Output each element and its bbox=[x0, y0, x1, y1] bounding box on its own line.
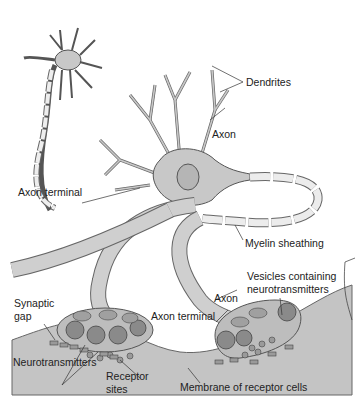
label-synaptic-gap-line2: gap bbox=[14, 310, 32, 322]
nucleus bbox=[177, 164, 199, 190]
label-axon-terminal-left: Axon terminal bbox=[18, 186, 82, 198]
label-receptor-sites-line2: sites bbox=[106, 383, 128, 395]
label-receptor-sites-line1: Receptor bbox=[106, 370, 149, 382]
label-axon-top: Axon bbox=[212, 128, 236, 140]
label-membrane: Membrane of receptor cells bbox=[180, 381, 307, 393]
label-synaptic-gap-line1: Synaptic bbox=[14, 297, 54, 309]
label-neurotransmitters: Neurotransmitters bbox=[13, 356, 96, 368]
neuron-diagram: Dendrites Axon Axon terminal Myelin shea… bbox=[0, 0, 361, 409]
label-dendrites: Dendrites bbox=[246, 76, 291, 88]
main-soma bbox=[153, 149, 250, 206]
label-myelin-sheathing: Myelin sheathing bbox=[245, 237, 324, 249]
label-axon-mid: Axon bbox=[214, 292, 238, 304]
label-vesicles-line1: Vesicles containing bbox=[247, 270, 336, 282]
label-vesicles-line2: neurotransmitters bbox=[247, 283, 329, 295]
neuron-illustration bbox=[0, 0, 361, 409]
label-axon-terminal-right: Axon terminal bbox=[151, 310, 215, 322]
